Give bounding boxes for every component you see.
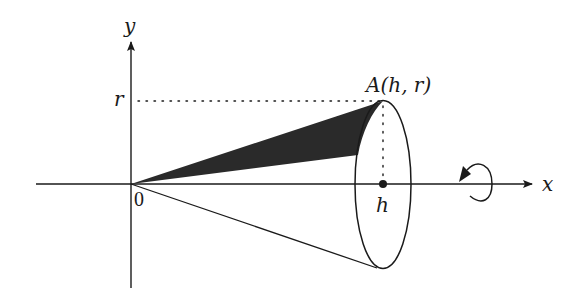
shaded-region bbox=[131, 101, 383, 184]
point-A-label: A(h, r) bbox=[364, 73, 431, 97]
origin-label: 0 bbox=[134, 188, 144, 210]
y-axis-label: y bbox=[123, 14, 136, 38]
point-h bbox=[379, 180, 387, 188]
x-axis-label: x bbox=[542, 172, 553, 196]
cone-lower-edge bbox=[131, 184, 377, 268]
r-label: r bbox=[114, 87, 125, 111]
rotation-arrow-icon bbox=[459, 164, 492, 201]
cone-diagram: y x r 0 h A(h, r) bbox=[0, 0, 578, 301]
h-label: h bbox=[376, 193, 389, 217]
